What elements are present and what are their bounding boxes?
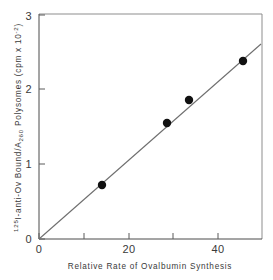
data-point — [98, 181, 106, 189]
y-tick-label-1: 1 — [26, 158, 32, 170]
y-axis-title: 125I-anti-Ov Bound/A260 Polysomes (cpm x… — [12, 23, 24, 232]
x-tick-label-0: 0 — [36, 243, 42, 255]
y-axis-title-sub-a: 260 — [17, 129, 24, 142]
regression-line — [39, 44, 261, 239]
x-tick-label-40: 40 — [212, 243, 225, 255]
scatter-plot-figure: 0 1 2 3 0 20 40 Relative Rate of Ovalbum… — [0, 0, 273, 280]
y-axis-title-prefix: 125 — [12, 219, 19, 232]
y-tick-label-2: 2 — [26, 83, 32, 95]
y-tick-label-0: 0 — [26, 233, 32, 245]
y-axis-title-main-b: Polysomes (cpm x 10 — [14, 33, 23, 129]
x-axis-title: Relative Rate of Ovalbumin Synthesis — [68, 262, 232, 271]
plot-frame-border — [39, 14, 262, 239]
data-point — [163, 119, 171, 127]
x-tick-label-20: 20 — [123, 243, 136, 255]
data-point — [185, 96, 193, 104]
figure-panel: 0 1 2 3 0 20 40 Relative Rate of Ovalbum… — [0, 0, 273, 280]
y-axis-title-sup-b: -2 — [12, 26, 19, 33]
data-point — [239, 57, 247, 65]
y-axis-title-main-a: I-anti-Ov Bound/A — [14, 142, 23, 220]
y-tick-label-3: 3 — [26, 10, 32, 22]
y-axis-title-main-c: ) — [14, 23, 23, 26]
